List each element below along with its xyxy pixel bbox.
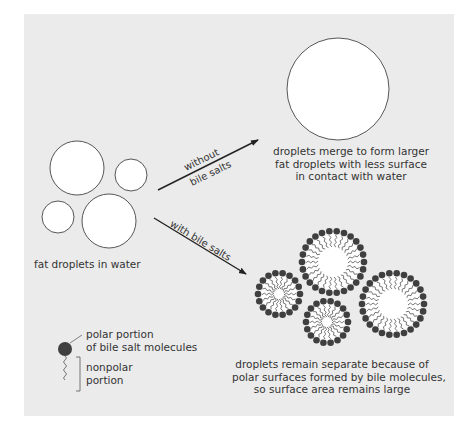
polar-head bbox=[303, 319, 310, 326]
polar-head bbox=[265, 309, 272, 316]
polar-head bbox=[340, 305, 347, 312]
fat-droplet bbox=[115, 159, 147, 191]
polar-head bbox=[319, 288, 326, 295]
polar-head bbox=[308, 305, 315, 312]
polar-head bbox=[343, 326, 350, 333]
nonpolar-bracket bbox=[76, 357, 80, 391]
separate-caption: droplets remain separate because of pola… bbox=[232, 358, 432, 396]
polar-head bbox=[353, 279, 360, 286]
polar-head bbox=[341, 288, 348, 295]
polar-head bbox=[256, 298, 263, 305]
polar-head bbox=[334, 337, 341, 344]
polar-head bbox=[360, 293, 367, 300]
polar-head bbox=[272, 270, 279, 277]
merge-caption-line-1: droplets merge to form larger bbox=[268, 145, 434, 158]
polar-head bbox=[345, 319, 352, 326]
polar-head bbox=[341, 230, 348, 237]
polar-head bbox=[272, 311, 279, 318]
polar-head bbox=[313, 337, 320, 344]
polar-head bbox=[353, 238, 360, 245]
polar-head bbox=[333, 228, 340, 235]
initial-caption: fat droplets in water bbox=[34, 258, 141, 271]
polar-head bbox=[260, 277, 267, 284]
nonpolar-tail-icon bbox=[64, 356, 67, 380]
separate-caption-line-1: droplets remain separate because of bbox=[232, 358, 432, 371]
polar-head bbox=[256, 284, 263, 291]
polar-head bbox=[286, 309, 293, 316]
polar-head bbox=[360, 251, 367, 258]
polar-head bbox=[304, 326, 311, 333]
polar-head bbox=[299, 259, 306, 266]
polar-head bbox=[417, 286, 424, 293]
polar-head bbox=[327, 298, 334, 305]
polar-head bbox=[304, 312, 311, 319]
polar-head bbox=[357, 273, 364, 280]
polar-head bbox=[393, 332, 400, 339]
polar-head bbox=[362, 286, 369, 293]
polar-head bbox=[265, 273, 272, 280]
polar-head bbox=[379, 272, 386, 279]
polar-head bbox=[333, 290, 340, 297]
merge-caption-line-2: fat droplets with less surface bbox=[268, 158, 434, 171]
polar-head bbox=[260, 304, 267, 311]
polar-head bbox=[295, 298, 302, 305]
polar-head bbox=[334, 301, 341, 308]
fat-droplet bbox=[50, 141, 104, 195]
polar-head bbox=[279, 270, 286, 277]
merged-droplet bbox=[287, 38, 389, 140]
separate-caption-line-2: polar surfaces formed by bile molecules, bbox=[232, 371, 432, 384]
nonpolar-label: nonpolar portion bbox=[86, 361, 133, 386]
polar-head bbox=[386, 332, 393, 339]
polar-head bbox=[357, 244, 364, 251]
polar-head bbox=[300, 251, 307, 258]
polar-head bbox=[279, 311, 286, 318]
polar-head bbox=[361, 259, 368, 266]
coated-droplets-group bbox=[255, 228, 428, 346]
polar-label: polar portion of bile salt molecules bbox=[86, 328, 197, 353]
polar-head bbox=[360, 266, 367, 273]
polar-head bbox=[420, 293, 427, 300]
polar-head bbox=[367, 280, 374, 287]
polar-head bbox=[347, 233, 354, 240]
merge-caption: droplets merge to form larger fat drople… bbox=[268, 145, 434, 183]
polar-head bbox=[320, 339, 327, 346]
polar-head bbox=[362, 315, 369, 322]
coated-droplet bbox=[299, 228, 368, 296]
polar-head-icon bbox=[58, 342, 72, 356]
polar-head bbox=[367, 321, 374, 328]
polar-head bbox=[413, 280, 420, 287]
fat-droplet bbox=[42, 201, 74, 233]
polar-head bbox=[292, 277, 299, 284]
polar-head bbox=[326, 290, 333, 297]
polar-head bbox=[340, 332, 347, 339]
polar-head bbox=[327, 339, 334, 346]
polar-head bbox=[313, 301, 320, 308]
polar-head bbox=[421, 301, 428, 308]
polar-head bbox=[292, 304, 299, 311]
leader-line bbox=[70, 335, 82, 343]
polar-head bbox=[302, 273, 309, 280]
polar-head bbox=[379, 330, 386, 337]
polar-label-line-2: of bile salt molecules bbox=[86, 341, 197, 354]
polar-head bbox=[302, 244, 309, 251]
coated-droplet bbox=[255, 270, 304, 318]
polar-head bbox=[360, 308, 367, 315]
polar-head bbox=[255, 291, 262, 298]
polar-head bbox=[295, 284, 302, 291]
polar-head bbox=[413, 321, 420, 328]
polar-label-line-1: polar portion bbox=[86, 328, 197, 341]
polar-head bbox=[312, 284, 319, 291]
polar-head bbox=[372, 275, 379, 282]
fat-droplet bbox=[82, 194, 136, 248]
polar-head bbox=[300, 266, 307, 273]
nonpolar-label-line-1: nonpolar bbox=[86, 361, 133, 374]
polar-head bbox=[347, 284, 354, 291]
polar-head bbox=[393, 270, 400, 277]
polar-head bbox=[407, 326, 414, 333]
polar-head bbox=[312, 233, 319, 240]
polar-head bbox=[343, 312, 350, 319]
merged-droplet-group bbox=[287, 38, 389, 140]
polar-head bbox=[307, 238, 314, 245]
polar-head bbox=[401, 272, 408, 279]
polar-head bbox=[417, 315, 424, 322]
